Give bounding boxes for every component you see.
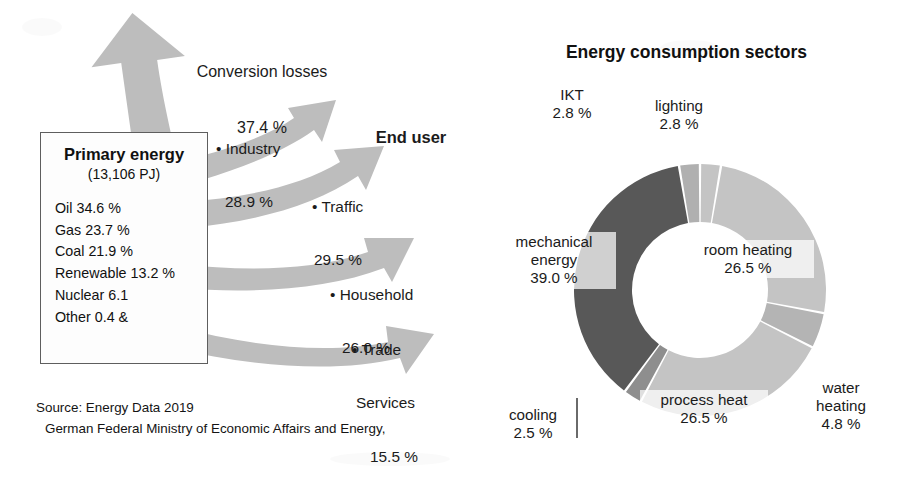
list-item: Coal 21.9 %	[55, 241, 207, 263]
slice-label-water-heating-name-1: water	[795, 379, 887, 397]
slice-label-room-heating-value: 26.5 %	[685, 259, 811, 277]
slice-label-cooling-value: 2.5 %	[491, 424, 575, 442]
end-user-trade-label: • Trade	[352, 341, 462, 359]
primary-energy-title: Primary energy	[41, 145, 207, 164]
slice-label-cooling-name: cooling	[491, 406, 575, 424]
slice-label-process-heat: process heat 26.5 %	[640, 390, 768, 428]
conversion-losses-title: Conversion losses	[172, 63, 352, 82]
slice-label-mechanical-name-1: mechanical	[495, 233, 613, 251]
end-user-trade-value: 15.5 %	[352, 448, 462, 466]
slice-label-room-heating: room heating 26.5 %	[682, 240, 814, 278]
list-item: Renewable 13.2 %	[55, 263, 207, 285]
slice-label-mechanical-name-2: energy	[495, 251, 613, 269]
slice-label-ikt: IKT 2.8 %	[530, 85, 614, 123]
list-item: Oil 34.6 %	[55, 198, 207, 220]
end-user-industry-label: • Industry	[216, 140, 336, 158]
source-line-1: Source: Energy Data 2019	[36, 398, 456, 419]
end-user-header: End user	[356, 128, 466, 147]
source-note: Source: Energy Data 2019 German Federal …	[36, 398, 456, 440]
figure-canvas: Conversion losses 37.4 % Primary energy …	[0, 0, 903, 493]
slice-label-ikt-value: 2.8 %	[533, 104, 611, 122]
primary-energy-subtitle: (13,106 PJ)	[41, 166, 207, 182]
slice-label-lighting: lighting 2.8 %	[630, 96, 728, 134]
end-user-household-label: • Household	[330, 286, 460, 304]
slice-label-water-heating-name-2: heating	[795, 397, 887, 415]
slice-label-lighting-value: 2.8 %	[633, 115, 725, 133]
list-item: Other 0.4 &	[55, 307, 207, 329]
list-item: Gas 23.7 %	[55, 220, 207, 242]
energy-consumption-donut-panel: Energy consumption sectors IKT 2.8 % lig…	[470, 0, 903, 493]
primary-energy-box: Primary energy (13,106 PJ) Oil 34.6 % Ga…	[40, 132, 208, 364]
slice-label-water-heating: water heating 4.8 %	[792, 378, 890, 435]
donut-slices	[574, 164, 826, 416]
slice-label-mechanical-energy: mechanical energy 39.0 %	[492, 232, 616, 289]
primary-energy-source-list: Oil 34.6 % Gas 23.7 % Coal 21.9 % Renewa…	[41, 198, 207, 328]
slice-label-water-heating-value: 4.8 %	[795, 415, 887, 433]
slice-label-process-heat-value: 26.5 %	[643, 409, 765, 427]
slice-label-cooling: cooling 2.5 %	[488, 405, 578, 443]
slice-label-mechanical-value: 39.0 %	[495, 269, 613, 287]
source-line-2: German Federal Ministry of Economic Affa…	[36, 419, 456, 440]
end-user-traffic-label: • Traffic	[312, 198, 422, 216]
primary-energy-flow-diagram: Conversion losses 37.4 % Primary energy …	[0, 0, 470, 493]
list-item: Nuclear 6.1	[55, 285, 207, 307]
slice-label-room-heating-name: room heating	[685, 241, 811, 259]
slice-label-lighting-name: lighting	[633, 97, 725, 115]
slice-label-process-heat-name: process heat	[643, 391, 765, 409]
slice-label-ikt-name: IKT	[533, 86, 611, 104]
donut-slice-room-heating	[712, 166, 826, 312]
